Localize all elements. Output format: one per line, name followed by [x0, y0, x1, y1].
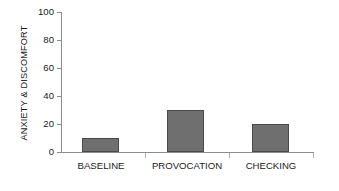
- y-tick-mark: [57, 12, 61, 13]
- y-tick-label: 20: [43, 118, 54, 129]
- y-tick-mark: [57, 152, 61, 153]
- x-label-checking: CHECKING: [229, 160, 313, 171]
- y-tick-label: 80: [43, 34, 54, 45]
- x-axis-line: [61, 152, 314, 153]
- y-tick-100: 100: [0, 12, 61, 13]
- y-tick-80: 80: [0, 40, 61, 41]
- y-tick-label: 60: [43, 62, 54, 73]
- y-tick-label: 0: [49, 146, 54, 157]
- bar-baseline: [82, 138, 119, 152]
- bar-provocation: [167, 110, 204, 152]
- y-tick-mark: [57, 68, 61, 69]
- x-label-provocation: PROVOCATION: [145, 160, 229, 171]
- y-tick-label: 100: [38, 6, 54, 17]
- bar-checking: [252, 124, 289, 152]
- x-tick-separator-3: [313, 153, 314, 158]
- y-tick-mark: [57, 40, 61, 41]
- y-tick-20: 20: [0, 124, 61, 125]
- x-tick-separator-2: [229, 153, 230, 158]
- y-tick-label: 40: [43, 90, 54, 101]
- y-axis-line: [61, 12, 62, 153]
- y-axis-title: ANXIETY & DISCOMFORT: [19, 11, 29, 156]
- x-tick-separator-1: [145, 153, 146, 158]
- bar-chart: ANXIETY & DISCOMFORT 100 80 60 40 20 0 B…: [0, 0, 339, 191]
- x-label-baseline: BASELINE: [61, 160, 141, 171]
- y-tick-mark: [57, 124, 61, 125]
- y-tick-40: 40: [0, 96, 61, 97]
- y-tick-60: 60: [0, 68, 61, 69]
- y-tick-mark: [57, 96, 61, 97]
- y-tick-0: 0: [0, 152, 61, 153]
